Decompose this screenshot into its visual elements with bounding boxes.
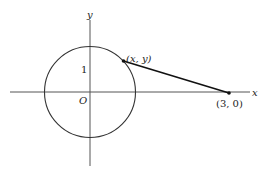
point-xy-label: (x, y) <box>126 53 152 64</box>
point-xy <box>122 59 126 63</box>
point-3-0-label: (3, 0) <box>216 98 243 109</box>
origin-label: O <box>79 95 87 106</box>
x-axis-label: x <box>252 87 258 98</box>
segment-to-3-0 <box>124 61 230 93</box>
tick-label-1: 1 <box>81 64 87 75</box>
y-axis-label: y <box>86 9 93 20</box>
point-3-0 <box>227 91 231 95</box>
coordinate-diagram: y x 1 O (x, y) (3, 0) <box>0 0 263 171</box>
